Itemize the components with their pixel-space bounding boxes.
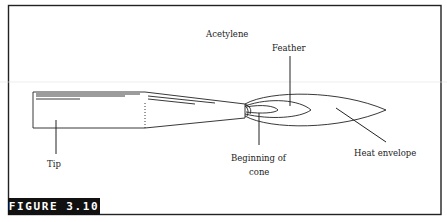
heat-envelope-label: Heat envelope <box>354 148 416 158</box>
figure-number-label: FIGURE 3.10 <box>8 198 100 215</box>
tip-label: Tip <box>47 159 61 169</box>
heat-envelope-shape <box>245 94 386 126</box>
beginning-of-cone-label-line2: cone <box>249 167 269 177</box>
torch-flame-diagram: Acetylene Feather Tip Beginning of cone … <box>0 0 447 222</box>
flame-shape <box>245 94 386 126</box>
leader-lines <box>56 56 386 154</box>
figure-container: Acetylene Feather Tip Beginning of cone … <box>0 0 447 222</box>
torch-tip-shape <box>33 92 245 128</box>
beginning-of-cone-label-line1: Beginning of <box>231 153 287 163</box>
acetylene-label: Acetylene <box>205 29 248 39</box>
feather-label: Feather <box>272 43 306 53</box>
feather-shape <box>245 101 311 118</box>
